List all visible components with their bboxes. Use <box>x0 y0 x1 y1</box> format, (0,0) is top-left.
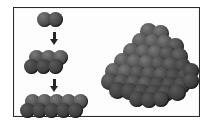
right-panel-label: 3D pyramidal sphere stack <box>95 9 96 10</box>
arrow-down-1 <box>50 32 59 46</box>
cluster-ten-label: ten-sphere cluster <box>20 94 21 95</box>
cluster-ten: ten-sphere cluster <box>20 94 92 120</box>
figure-frame-inner: Vertical sequence of sphere clusters con… <box>14 8 199 116</box>
arrow-head <box>50 86 58 92</box>
sphere <box>48 12 63 27</box>
sphere <box>153 91 169 107</box>
figure-root: Vertical sequence of sphere clusters con… <box>0 0 214 128</box>
sphere <box>48 59 63 74</box>
growth-sequence-panel: Vertical sequence of sphere clusters con… <box>15 9 95 117</box>
large-cluster-panel: 3D pyramidal sphere stack <box>95 9 200 117</box>
cluster-dimer-label: dimer <box>35 12 36 13</box>
large-cluster <box>98 23 198 105</box>
arrow-head <box>50 39 58 45</box>
sphere <box>169 84 186 101</box>
sphere <box>183 73 199 89</box>
cluster-six: six-sphere cluster <box>26 50 84 76</box>
figure-frame: Vertical sequence of sphere clusters con… <box>13 7 200 117</box>
cluster-six-label: six-sphere cluster <box>26 50 27 51</box>
cluster-dimer: dimer <box>35 12 75 28</box>
sphere <box>68 103 83 118</box>
arrow-down-2 <box>50 79 59 93</box>
left-panel-label: Vertical sequence of sphere clusters con… <box>15 9 16 10</box>
